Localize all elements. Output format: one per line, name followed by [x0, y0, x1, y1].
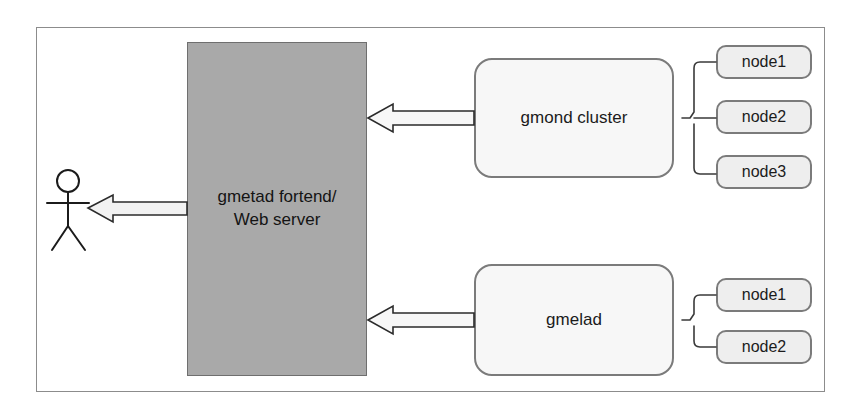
gmelad-node-2-label: node2: [742, 338, 787, 356]
gmond-node-2-label: node2: [742, 108, 787, 126]
gmetad-label-line-2: Web server: [217, 209, 336, 232]
gmelad-node-1-label: node1: [742, 286, 787, 304]
gmond-node-1: node1: [716, 45, 812, 79]
diagram-frame: [36, 27, 825, 392]
gmelad-node-1: node1: [716, 278, 812, 312]
gmetad-label-line-1: gmetad fortend/: [217, 186, 336, 209]
gmond-node-3-label: node3: [742, 163, 787, 181]
gmond-node-1-label: node1: [742, 53, 787, 71]
gmelad-label: gmelad: [546, 310, 602, 330]
gmetad-web-server-box: gmetad fortend/ Web server: [187, 42, 367, 376]
gmetad-web-server-label: gmetad fortend/ Web server: [217, 186, 336, 232]
gmond-node-2: node2: [716, 100, 812, 134]
gmelad-node-2: node2: [716, 330, 812, 364]
gmelad-box: gmelad: [474, 264, 674, 376]
gmond-cluster-box: gmond cluster: [474, 58, 674, 178]
diagram-canvas: gmetad fortend/ Web server gmond cluster…: [0, 0, 866, 411]
gmond-node-3: node3: [716, 155, 812, 189]
gmond-cluster-label: gmond cluster: [521, 108, 628, 128]
